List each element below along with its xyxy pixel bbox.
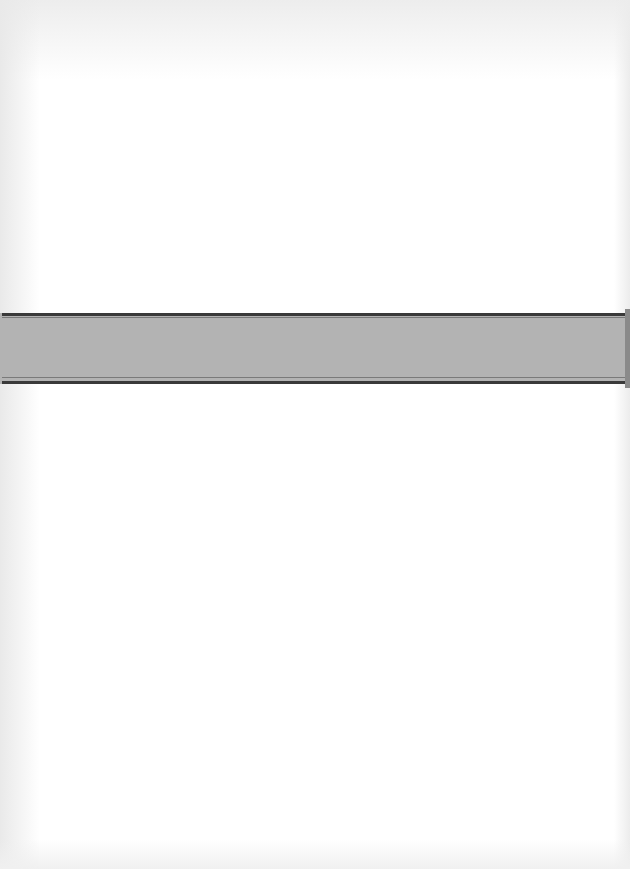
band-right-edge (625, 309, 630, 388)
band-top-rule (2, 313, 630, 316)
scan-shadow-right (614, 0, 630, 869)
scan-shadow-bottom (0, 839, 630, 869)
band-bottom-rule (2, 381, 630, 384)
scanned-page (0, 0, 630, 869)
gray-divider-band (0, 313, 630, 384)
scan-shadow-left (0, 0, 40, 869)
